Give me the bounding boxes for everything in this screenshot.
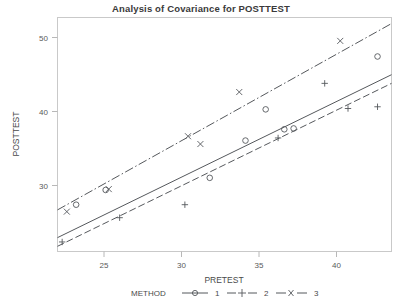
- y-tick-label-50: 50: [39, 34, 48, 43]
- legend-label-1: 1: [215, 289, 220, 298]
- data-point-2-4: [322, 80, 328, 86]
- plot-frame: [58, 18, 392, 252]
- data-point-3-0: [64, 209, 70, 215]
- data-point-2-2: [182, 202, 188, 208]
- data-point-2-5: [345, 105, 351, 111]
- x-axis-title: PRETEST: [204, 275, 243, 285]
- series-2: [58, 80, 392, 246]
- legend-label-3: 3: [314, 289, 319, 298]
- data-point-2-6: [374, 104, 380, 110]
- legend-title: METHOD: [131, 289, 166, 298]
- x-tick-label-35: 35: [255, 261, 264, 270]
- fit-line-2: [58, 83, 392, 246]
- data-point-1-0: [73, 202, 79, 208]
- legend: METHOD 1 2 3: [131, 289, 319, 298]
- data-point-3-1: [106, 186, 112, 192]
- y-tick-label-30: 30: [39, 182, 48, 191]
- y-axis-ticks: 50 40 30: [39, 34, 57, 191]
- legend-label-2: 2: [264, 289, 269, 298]
- chart-container: Analysis of Covariance for POSTTEST 50 4…: [0, 0, 402, 308]
- x-tick-label-25: 25: [100, 261, 109, 270]
- x-marker-icon: [289, 290, 294, 296]
- legend-item-3[interactable]: 3: [276, 289, 319, 298]
- series-1: [58, 54, 392, 238]
- chart-canvas: 50 40 30 25 30 35 40 PRETEST POSTTEST ME…: [0, 0, 402, 308]
- x-tick-label-40: 40: [332, 261, 341, 270]
- data-point-1-2: [207, 175, 213, 181]
- data-point-2-0: [59, 239, 65, 245]
- data-point-2-1: [116, 215, 122, 221]
- y-axis-title: POSTTEST: [11, 112, 21, 157]
- data-point-3-4: [236, 89, 242, 95]
- legend-item-2[interactable]: 2: [227, 289, 269, 298]
- plus-marker-icon: [238, 289, 246, 297]
- series-layer: [58, 24, 392, 247]
- legend-item-1[interactable]: 1: [182, 289, 220, 298]
- series-3: [58, 24, 392, 215]
- fit-line-1: [58, 75, 392, 238]
- y-tick-label-40: 40: [39, 108, 48, 117]
- data-point-3-3: [197, 141, 203, 147]
- data-point-1-7: [375, 54, 381, 60]
- data-point-3-5: [337, 38, 343, 44]
- x-axis-ticks: 25 30 35 40: [100, 252, 342, 271]
- data-point-1-3: [243, 138, 249, 144]
- x-tick-label-30: 30: [177, 261, 186, 270]
- fit-line-3: [58, 24, 392, 210]
- data-point-1-4: [263, 107, 269, 113]
